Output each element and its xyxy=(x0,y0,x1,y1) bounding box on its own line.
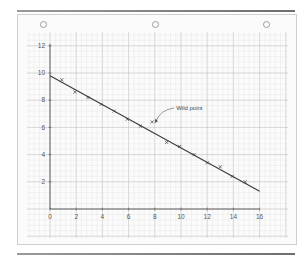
y-tick-label: 8 xyxy=(41,96,45,103)
x-tick-label: 8 xyxy=(153,213,157,220)
x-tick-label: 6 xyxy=(127,213,131,220)
y-tick-label: 10 xyxy=(38,69,46,76)
y-tick-label: 12 xyxy=(38,42,46,49)
annotation-label: Wild point xyxy=(176,105,203,111)
arrowhead-icon xyxy=(155,118,158,123)
x-tick-label: 4 xyxy=(101,213,105,220)
x-tick-label: 0 xyxy=(48,213,52,220)
x-tick-label: 14 xyxy=(230,213,238,220)
y-tick-label: 2 xyxy=(41,178,45,185)
x-tick-label: 2 xyxy=(74,213,78,220)
data-point-marker-icon xyxy=(219,165,222,168)
wild-point-annotation: Wild point xyxy=(155,105,203,123)
y-tick-label: 4 xyxy=(41,151,45,158)
x-tick-label: 16 xyxy=(256,213,264,220)
scatter-chart: 024681012141624681012 Wild point xyxy=(0,0,307,260)
x-tick-label: 10 xyxy=(177,213,185,220)
y-tick-label: 6 xyxy=(41,124,45,131)
x-tick-label: 12 xyxy=(204,213,212,220)
data-points xyxy=(60,78,247,183)
